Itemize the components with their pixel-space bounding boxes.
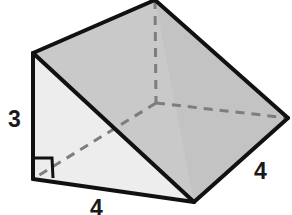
dimension-label-depth: 4 xyxy=(90,197,103,215)
prism-drawing xyxy=(0,0,292,215)
dimension-label-width: 4 xyxy=(254,160,267,183)
dimension-label-height: 3 xyxy=(8,108,21,131)
geometry-figure: 3 4 4 xyxy=(0,0,292,215)
